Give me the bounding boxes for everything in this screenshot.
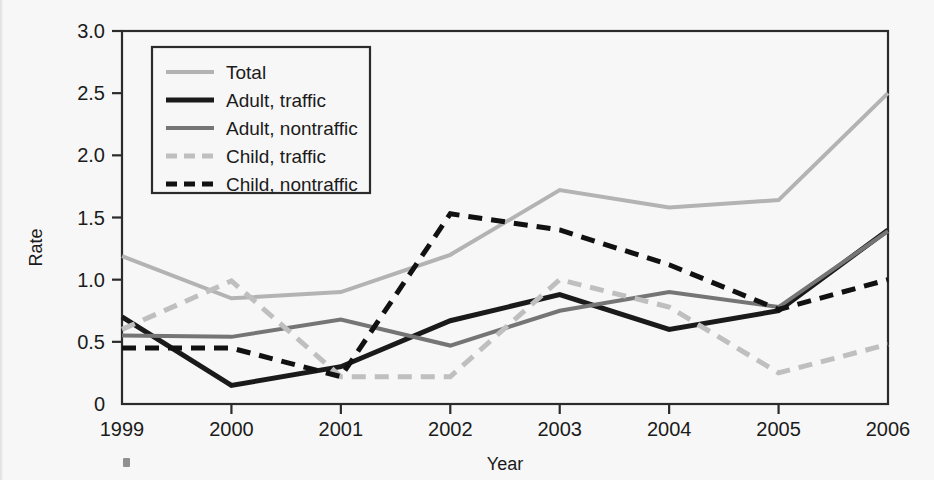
series-line-child-nontraffic (122, 214, 888, 377)
legend-label-child-nontraffic: Child, nontraffic (226, 174, 358, 195)
x-axis-tick-label: 2003 (537, 418, 582, 440)
y-axis-tick-label: 3.0 (77, 20, 105, 42)
x-axis-tick-label: 1999 (100, 418, 145, 440)
y-axis-tick-label: 1.5 (77, 207, 105, 229)
x-axis-tick-label: 2000 (209, 418, 254, 440)
figure-container: 00.51.01.52.02.53.0199920002001200220032… (0, 0, 934, 480)
x-axis-tick-label: 2002 (428, 418, 473, 440)
scan-artifact-speck (123, 458, 130, 467)
legend-label-adult-nontraffic: Adult, nontraffic (226, 118, 358, 139)
x-axis-tick-label: 2004 (647, 418, 692, 440)
series-line-child-traffic (122, 280, 888, 377)
x-axis-tick-label: 2006 (866, 418, 911, 440)
y-axis-tick-label: 2.0 (77, 144, 105, 166)
legend-label-child-traffic: Child, traffic (226, 146, 326, 167)
x-axis-tick-label: 2001 (319, 418, 364, 440)
y-axis-tick-label: 0.5 (77, 331, 105, 353)
legend-label-total: Total (226, 62, 266, 83)
y-axis-tick-label: 2.5 (77, 82, 105, 104)
line-chart: 00.51.01.52.02.53.0199920002001200220032… (0, 0, 934, 480)
x-axis-title: Year (487, 454, 523, 474)
x-axis-tick-label: 2005 (756, 418, 801, 440)
legend-label-adult-traffic: Adult, traffic (226, 90, 326, 111)
y-axis-tick-label: 1.0 (77, 269, 105, 291)
y-axis-tick-label: 0 (94, 393, 105, 415)
y-axis-title: Rate (26, 228, 46, 266)
